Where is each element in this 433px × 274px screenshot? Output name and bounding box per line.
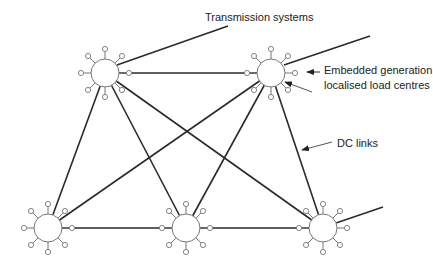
transmission-systems-label: Transmission systems: [205, 11, 313, 24]
embedded-generation-label: Embedded generation: [324, 64, 432, 77]
embedded-generator-icon: [296, 225, 301, 230]
node-circle: [309, 214, 337, 242]
embedded-generator-icon: [102, 46, 107, 51]
embedded-generator-icon: [207, 225, 212, 230]
embedded-generator-icon: [251, 53, 256, 58]
embedded-generator-icon: [303, 208, 308, 213]
spoke: [115, 58, 120, 63]
embedded-generator-icon: [200, 242, 205, 247]
node-bottom-left: [21, 201, 74, 254]
embedded-generator-icon: [292, 70, 297, 75]
embedded-generator-icon: [344, 225, 349, 230]
spoke: [196, 238, 201, 243]
embedded-generator-icon: [78, 70, 83, 75]
embedded-generator-icon: [28, 208, 33, 213]
spoke: [308, 238, 313, 243]
spoke: [281, 83, 286, 88]
embedded-generator-icon: [183, 249, 188, 254]
embedded-generator-icon: [320, 249, 325, 254]
embedded-generator-icon: [45, 249, 50, 254]
node-top-right: [244, 46, 297, 99]
node-circle: [34, 214, 62, 242]
embedded-generator-icon: [28, 242, 33, 247]
dc-link: [48, 73, 271, 228]
node-top-left: [78, 46, 131, 99]
dc-links-arrow: [302, 142, 332, 150]
spoke: [171, 213, 176, 218]
embedded-generator-icon: [285, 87, 290, 92]
embedded-generator-icon: [85, 53, 90, 58]
spoke: [196, 213, 201, 218]
transmission-lines: [117, 26, 383, 223]
embedded-generator-icon: [126, 70, 131, 75]
embedded-generator-icon: [62, 208, 67, 213]
embedded-generator-icon: [85, 87, 90, 92]
embedded-generator-icon: [337, 208, 342, 213]
embedded-generator-icon: [21, 225, 26, 230]
embedded-generator-icon: [102, 94, 107, 99]
spoke: [333, 213, 338, 218]
embedded-generator-icon: [268, 46, 273, 51]
dc-link: [105, 73, 323, 228]
localised-load-centres-label: localised load centres: [324, 79, 430, 92]
embedded-generator-icon: [268, 94, 273, 99]
spoke: [90, 83, 95, 88]
embedded-generator-icon: [251, 87, 256, 92]
embedded-generator-icon: [119, 87, 124, 92]
spoke: [33, 238, 38, 243]
embedded-generator-icon: [45, 201, 50, 206]
node-bottom-middle: [159, 201, 212, 254]
dc-link: [105, 73, 186, 228]
node-circle: [172, 214, 200, 242]
spoke: [333, 238, 338, 243]
embedded-generator-icon: [303, 242, 308, 247]
dc-link: [271, 73, 323, 228]
dc-link: [186, 73, 271, 228]
spoke: [171, 238, 176, 243]
embedded-generator-icon: [183, 201, 188, 206]
embedded-generator-icon: [200, 208, 205, 213]
dc-link: [48, 73, 105, 228]
embedded-generator-icon: [320, 201, 325, 206]
embedded-generator-icon: [166, 208, 171, 213]
embedded-generator-icon: [285, 53, 290, 58]
spoke: [33, 213, 38, 218]
embedded-generator-icon: [159, 225, 164, 230]
embedded-generator-icon: [62, 242, 67, 247]
node-bottom-right: [296, 201, 349, 254]
spoke: [281, 58, 286, 63]
node-circle: [257, 59, 285, 87]
nodes-group: [21, 46, 349, 254]
embedded-generator-icon: [69, 225, 74, 230]
spoke: [58, 238, 63, 243]
dc-links-label: DC links: [337, 137, 378, 150]
node-circle: [91, 59, 119, 87]
spoke: [256, 58, 261, 63]
embedded-generator-icon: [244, 70, 249, 75]
embedded-generator-icon: [119, 53, 124, 58]
embedded-generator-icon: [337, 242, 342, 247]
spoke: [90, 58, 95, 63]
embedded-generator-icon: [166, 242, 171, 247]
